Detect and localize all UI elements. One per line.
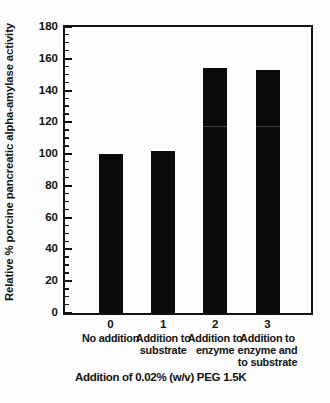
y-axis-tick-label: 80	[18, 180, 58, 192]
y-axis-minor-tick	[65, 137, 69, 138]
y-axis-major-tick	[65, 280, 72, 282]
y-axis-major-tick	[65, 185, 72, 187]
y-axis-tick-label: 140	[18, 85, 58, 97]
x-axis-category-label: Addition toenzyme andto substrate	[229, 333, 307, 368]
y-axis-tick-label: 180	[18, 21, 58, 33]
x-axis-category-label-line: to substrate	[229, 357, 307, 369]
y-axis-minor-tick	[65, 193, 69, 194]
y-axis-major-tick	[65, 121, 72, 123]
y-axis-major-tick	[65, 153, 72, 155]
bar	[151, 151, 175, 313]
y-axis-minor-tick	[65, 296, 69, 297]
y-axis-title: Relative % porcine pancreatic alpha-amyl…	[3, 23, 15, 301]
y-axis-minor-tick	[65, 74, 69, 75]
y-axis-minor-tick	[65, 50, 69, 51]
y-axis-major-tick	[65, 217, 72, 219]
scan-artifact-line	[203, 126, 227, 128]
y-axis-minor-tick	[65, 145, 69, 146]
y-axis-tick-label: 120	[18, 117, 58, 129]
y-axis-major-tick	[65, 312, 72, 314]
y-axis-minor-tick	[65, 241, 69, 242]
y-axis-tick-label: 160	[18, 53, 58, 65]
y-axis-minor-tick	[65, 105, 69, 106]
y-axis-minor-tick	[65, 209, 69, 210]
bar	[99, 154, 123, 313]
bar-chart-figure: Relative % porcine pancreatic alpha-amyl…	[0, 0, 330, 403]
y-axis-tick-label: 100	[18, 148, 58, 160]
y-axis-major-tick	[65, 58, 72, 60]
x-axis-tick-label: 3	[248, 319, 288, 331]
x-axis-caption: Addition of 0.02% (w/v) PEG 1.5K	[75, 371, 246, 383]
y-axis-minor-tick	[65, 225, 69, 226]
x-axis-category-label-line: enzyme and	[229, 345, 307, 357]
y-axis-minor-tick	[65, 113, 69, 114]
y-axis-tick-label: 20	[18, 275, 58, 287]
y-axis-minor-tick	[65, 272, 69, 273]
y-axis-tick-label: 0	[18, 307, 58, 319]
y-axis-minor-tick	[65, 169, 69, 170]
y-axis-major-tick	[65, 90, 72, 92]
bar	[203, 68, 227, 313]
y-axis-minor-tick	[65, 304, 69, 305]
y-axis-tick-label: 60	[18, 212, 58, 224]
y-axis-tick-label: 40	[18, 244, 58, 256]
y-axis-minor-tick	[65, 34, 69, 35]
y-axis-minor-tick	[65, 42, 69, 43]
y-axis-major-tick	[65, 26, 72, 28]
y-axis-minor-tick	[65, 288, 69, 289]
x-axis-tick-label: 1	[143, 319, 183, 331]
y-axis-minor-tick	[65, 82, 69, 83]
y-axis-minor-tick	[65, 129, 69, 130]
y-axis-minor-tick	[65, 233, 69, 234]
plot-area	[63, 25, 313, 315]
y-axis-minor-tick	[65, 256, 69, 257]
y-axis-minor-tick	[65, 201, 69, 202]
y-axis-minor-tick	[65, 264, 69, 265]
y-axis-minor-tick	[65, 177, 69, 178]
x-axis-tick-label: 0	[91, 319, 131, 331]
y-axis-minor-tick	[65, 161, 69, 162]
y-axis-minor-tick	[65, 98, 69, 99]
x-axis-tick-label: 2	[195, 319, 235, 331]
y-axis-major-tick	[65, 248, 72, 250]
scan-artifact-line	[256, 126, 280, 128]
y-axis-minor-tick	[65, 66, 69, 67]
bar	[256, 70, 280, 313]
